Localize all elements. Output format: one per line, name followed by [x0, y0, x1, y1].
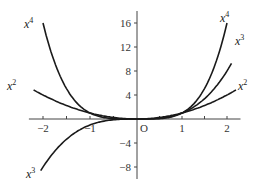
curve-x2 [34, 90, 236, 119]
y-tick-label: 12 [120, 41, 131, 53]
y-tick-label: 4 [126, 89, 132, 101]
y-tick-label: −4 [119, 137, 131, 149]
y-tick-label: 8 [126, 65, 132, 77]
curves [34, 23, 236, 171]
label-x3-left: x3 [25, 166, 35, 181]
x-tick-label: −2 [37, 122, 49, 134]
label-x3-right: x3 [234, 33, 244, 48]
label-x2-right: x2 [237, 78, 247, 93]
x-tick-label: 2 [224, 122, 230, 134]
curve-x3 [41, 63, 232, 170]
label-x4-left: x4 [23, 16, 33, 31]
power-functions-chart: −2−112161284−4−8 x4x2x3x4x3x2 O [0, 0, 261, 189]
y-tick-label: 16 [120, 17, 132, 29]
y-tick-label: −8 [119, 161, 131, 173]
origin-label: O [140, 122, 148, 134]
label-x2-left: x2 [6, 78, 16, 93]
label-x4-right: x4 [219, 10, 229, 25]
x-tick-label: 1 [179, 122, 185, 134]
